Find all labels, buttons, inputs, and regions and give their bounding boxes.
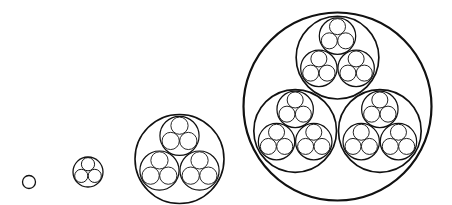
circle-depth-1 <box>277 91 313 127</box>
circle-depth-0 <box>338 33 354 49</box>
circle-depth-1 <box>319 18 355 54</box>
circle-depth-0 <box>295 106 311 122</box>
circle-depth-1 <box>140 151 179 190</box>
figure-depth-2 <box>135 115 224 204</box>
circle-depth-0 <box>81 158 94 171</box>
circle-depth-0 <box>353 124 369 140</box>
circle-depth-0 <box>356 65 372 81</box>
circle-depth-0 <box>200 167 217 184</box>
circle-depth-0 <box>160 167 177 184</box>
circle-depth-0 <box>329 19 345 35</box>
circle-depth-0 <box>361 138 377 154</box>
circle-depth-0 <box>303 65 319 81</box>
circle-depth-0 <box>314 138 330 154</box>
circle-depth-0 <box>287 92 303 108</box>
circle-depth-0 <box>180 132 197 149</box>
circle-depth-0 <box>321 33 337 49</box>
circle-depth-1 <box>301 50 337 86</box>
figure-depth-3 <box>244 13 432 201</box>
circle-depth-0 <box>399 138 415 154</box>
circle-depth-0 <box>279 106 295 122</box>
circle-depth-1 <box>258 123 294 159</box>
circle-depth-0 <box>345 138 361 154</box>
circle-depth-2 <box>338 90 421 173</box>
figure-depth-0 <box>23 176 36 189</box>
circle-depth-1 <box>362 91 398 127</box>
circle-depth-0 <box>151 152 168 169</box>
circle-depth-0 <box>75 169 88 182</box>
circle-depth-0 <box>298 138 314 154</box>
circle-depth-0 <box>191 152 208 169</box>
circle-depth-1 <box>160 116 199 155</box>
circle-depth-1 <box>343 123 379 159</box>
circle-depth-0 <box>380 106 396 122</box>
circle-depth-1 <box>338 50 374 86</box>
circle-depth-1 <box>380 123 416 159</box>
circle-depth-0 <box>382 138 398 154</box>
circle-depth-1 <box>296 123 332 159</box>
circle-depth-0 <box>277 138 293 154</box>
circle-depth-1 <box>180 151 219 190</box>
figure-depth-1 <box>73 157 103 187</box>
circle-depth-0 <box>340 65 356 81</box>
circle-depth-0 <box>162 132 179 149</box>
circle-depth-0 <box>364 106 380 122</box>
circle-depth-0 <box>319 65 335 81</box>
circle-depth-0 <box>372 92 388 108</box>
recursive-circles-diagram <box>0 0 452 205</box>
circle-depth-2 <box>296 16 379 99</box>
circle-depth-0 <box>88 169 101 182</box>
circle-depth-0 <box>269 124 285 140</box>
circle-depth-1 <box>73 157 103 187</box>
circle-depth-2 <box>254 90 337 173</box>
circle-depth-0 <box>182 167 199 184</box>
circle-depth-0 <box>348 51 364 67</box>
circle-depth-0 <box>171 117 188 134</box>
circle-depth-0 <box>260 138 276 154</box>
circle-depth-0 <box>390 124 406 140</box>
circle-depth-2 <box>135 115 224 204</box>
circle-depth-0 <box>23 176 36 189</box>
circle-depth-0 <box>311 51 327 67</box>
circle-depth-0 <box>306 124 322 140</box>
circle-depth-0 <box>142 167 159 184</box>
